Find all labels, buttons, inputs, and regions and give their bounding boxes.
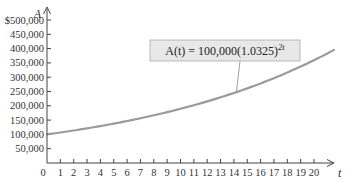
x-origin-label: 0 — [40, 167, 45, 178]
x-tick-label: 3 — [84, 167, 89, 178]
x-tick-label: 11 — [189, 167, 199, 178]
x-axis-ticks: 1234567891011121314151617181920 — [58, 159, 320, 178]
x-tick-label: 12 — [202, 167, 213, 178]
y-tick-label: 400,000 — [10, 43, 44, 54]
growth-curve — [47, 50, 334, 135]
x-tick-label: 18 — [282, 167, 293, 178]
x-tick-label: 8 — [151, 167, 156, 178]
y-tick-label: 350,000 — [10, 57, 44, 68]
x-tick-label: 10 — [175, 167, 186, 178]
x-tick-label: 14 — [229, 167, 240, 178]
y-tick-label: 200,000 — [10, 100, 44, 111]
x-tick-label: 13 — [215, 167, 226, 178]
x-tick-label: 16 — [255, 167, 266, 178]
x-tick-label: 17 — [269, 167, 280, 178]
y-tick-label: 150,000 — [10, 115, 44, 126]
y-tick-label: 50,000 — [15, 143, 44, 154]
x-tick-label: 19 — [295, 167, 306, 178]
formula-main: A(t) = 100,000(1.0325) — [165, 44, 278, 58]
x-axis-label: t — [338, 166, 342, 180]
y-tick-label: 250,000 — [10, 86, 44, 97]
y-tick-label: 300,000 — [10, 72, 44, 83]
x-tick-label: 4 — [98, 167, 104, 178]
x-tick-label: 6 — [124, 167, 129, 178]
x-tick-label: 1 — [58, 167, 63, 178]
x-tick-label: 7 — [138, 167, 143, 178]
y-tick-label: 450,000 — [10, 29, 44, 40]
x-tick-label: 20 — [309, 167, 320, 178]
formula-exponent: 2t — [278, 42, 285, 52]
x-tick-label: 2 — [71, 167, 76, 178]
x-tick-label: 15 — [242, 167, 253, 178]
x-tick-label: 9 — [165, 167, 170, 178]
exponential-growth-chart: 50,000100,000150,000200,000250,000300,00… — [0, 0, 347, 182]
label-leader-line — [237, 61, 240, 91]
y-axis-ticks: 50,000100,000150,000200,000250,000300,00… — [5, 15, 51, 155]
y-axis-label: A — [33, 7, 42, 21]
formula-label: A(t) = 100,000(1.0325)2t — [165, 42, 285, 58]
y-tick-label: 100,000 — [10, 129, 44, 140]
x-tick-label: 5 — [111, 167, 116, 178]
